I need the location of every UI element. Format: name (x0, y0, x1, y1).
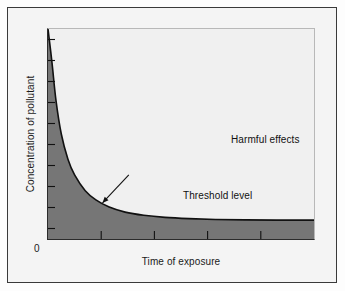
threshold-level-curve (48, 29, 314, 220)
axis-origin-label: 0 (34, 243, 40, 254)
chart-figure: Concentration of pollutant Time of expos… (0, 0, 345, 291)
y-axis-label: Concentration of pollutant (24, 28, 38, 240)
annotation-threshold-level: Threshold level (183, 190, 252, 201)
x-axis-label: Time of exposure (47, 256, 315, 267)
plot-area: Harmful effects No harmful effects Thres… (47, 28, 315, 240)
annotation-harmful-effects: Harmful effects (231, 134, 300, 145)
